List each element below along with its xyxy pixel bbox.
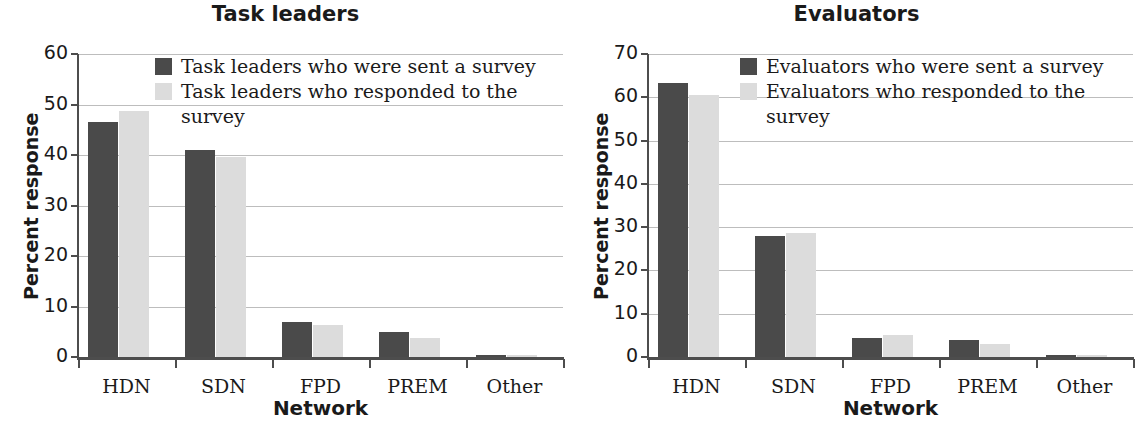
- panel-title: Task leaders: [0, 2, 571, 26]
- y-axis-tick-label: 70: [594, 41, 638, 63]
- y-axis-tick-label: 60: [24, 41, 68, 63]
- x-axis-tick-label: SDN: [744, 375, 844, 397]
- y-axis-tick-label: 20: [594, 257, 638, 279]
- x-axis-tick-mark: [78, 359, 80, 368]
- legend-swatch-icon: [155, 83, 172, 100]
- x-axis-tick-mark: [1133, 359, 1135, 368]
- x-axis-tick-mark: [648, 359, 650, 368]
- y-axis-tick-label: 60: [594, 84, 638, 106]
- bar: [1046, 355, 1076, 357]
- x-axis-tick-label: SDN: [174, 375, 274, 397]
- panel-task-leaders: Task leaders Percent response Network Ta…: [0, 0, 571, 433]
- x-axis-tick-mark: [369, 359, 371, 368]
- legend-swatch-icon: [155, 58, 172, 75]
- y-axis-tick-label: 0: [24, 344, 68, 366]
- y-axis-tick-label: 50: [594, 128, 638, 150]
- panel-evaluators: Evaluators Percent response Network Eval…: [571, 0, 1142, 433]
- x-axis-line: [77, 357, 564, 360]
- panel-title: Evaluators: [571, 2, 1142, 26]
- x-axis-tick-label: HDN: [77, 375, 177, 397]
- y-axis-tick-label: 0: [594, 344, 638, 366]
- x-axis-tick-label: PREM: [938, 375, 1038, 397]
- legend-swatch-icon: [740, 58, 757, 75]
- legend-label: Task leaders who responded to the survey: [181, 79, 555, 129]
- y-axis-tick-label: 10: [24, 294, 68, 316]
- x-axis-tick-label: HDN: [647, 375, 747, 397]
- x-axis-tick-label: PREM: [368, 375, 468, 397]
- x-axis-tick-label: FPD: [271, 375, 371, 397]
- y-axis-tick-label: 10: [594, 301, 638, 323]
- x-axis-line: [647, 357, 1134, 360]
- x-axis-tick-label: Other: [465, 375, 565, 397]
- bar: [476, 355, 506, 357]
- y-axis-tick-label: 40: [24, 142, 68, 164]
- y-axis-tick-label: 30: [594, 214, 638, 236]
- legend-item: Task leaders who responded to the survey: [155, 79, 555, 129]
- x-axis-tick-mark: [272, 359, 274, 368]
- x-axis-title: Network: [78, 396, 563, 420]
- y-axis-tick-label: 30: [24, 193, 68, 215]
- x-axis-tick-mark: [1036, 359, 1038, 368]
- two-panel-bar-chart-figure: Task leaders Percent response Network Ta…: [0, 0, 1143, 433]
- x-axis-tick-mark: [745, 359, 747, 368]
- legend-label: Evaluators who were sent a survey: [766, 54, 1103, 79]
- x-axis-tick-mark: [175, 359, 177, 368]
- x-axis-tick-mark: [939, 359, 941, 368]
- x-axis-tick-mark: [563, 359, 565, 368]
- legend: Task leaders who were sent a surveyTask …: [155, 54, 555, 129]
- y-axis-tick-label: 20: [24, 243, 68, 265]
- x-axis-tick-mark: [842, 359, 844, 368]
- legend-label: Task leaders who were sent a survey: [181, 54, 536, 79]
- x-axis-title: Network: [648, 396, 1133, 420]
- bar: [507, 355, 537, 357]
- bar: [1077, 355, 1107, 357]
- x-axis-tick-mark: [466, 359, 468, 368]
- legend-label: Evaluators who responded to the survey: [766, 79, 1135, 129]
- x-axis-tick-label: Other: [1035, 375, 1135, 397]
- y-axis-tick-label: 40: [594, 171, 638, 193]
- legend-item: Evaluators who were sent a survey: [740, 54, 1135, 79]
- legend-item: Evaluators who responded to the survey: [740, 79, 1135, 129]
- y-axis-tick-label: 50: [24, 92, 68, 114]
- legend-swatch-icon: [740, 83, 757, 100]
- x-axis-tick-label: FPD: [841, 375, 941, 397]
- legend-item: Task leaders who were sent a survey: [155, 54, 555, 79]
- legend: Evaluators who were sent a surveyEvaluat…: [740, 54, 1135, 129]
